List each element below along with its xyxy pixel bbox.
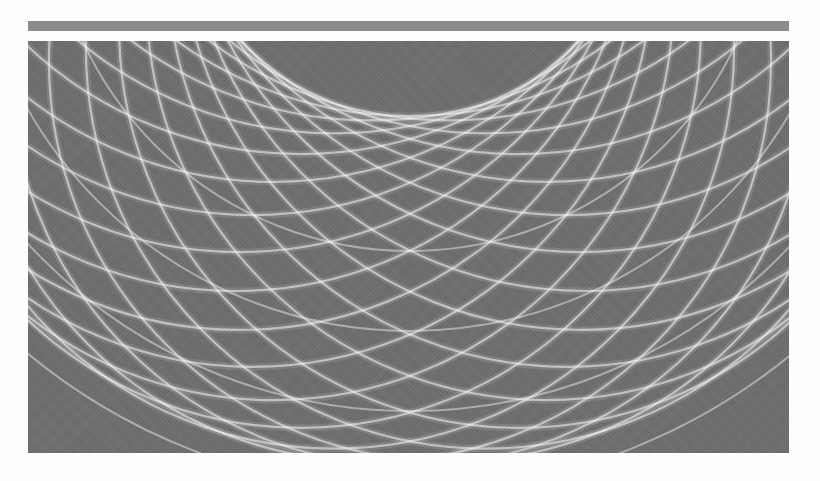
abstract-artwork <box>28 41 789 453</box>
pattern-arc <box>50 41 770 251</box>
circle-pattern-graphic <box>28 41 789 453</box>
header-rule <box>28 21 789 31</box>
page <box>0 0 820 481</box>
